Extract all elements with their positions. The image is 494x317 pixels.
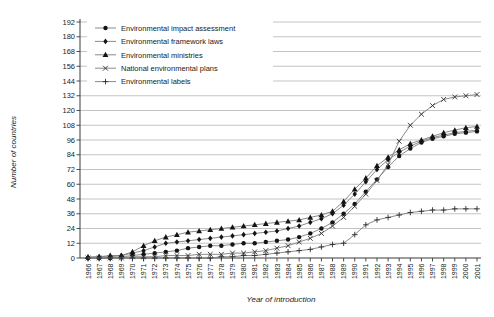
x-tick-label: 1986 — [307, 263, 314, 279]
x-tick-label: 1981 — [251, 263, 258, 279]
data-marker-plus — [396, 212, 402, 218]
data-marker-diamond — [175, 239, 179, 245]
y-tick-label: 120 — [62, 106, 75, 115]
data-marker-diamond — [286, 226, 290, 232]
y-tick-label: 192 — [62, 18, 75, 27]
data-marker-plus — [374, 217, 380, 223]
y-axis-tick-labels: 0122436486072849610812013214415616818019… — [62, 18, 75, 263]
data-marker-plus — [430, 207, 436, 213]
legend-label: Environmental impact assessment — [121, 24, 236, 33]
data-marker-diamond — [219, 234, 223, 240]
x-tick-label: 1972 — [151, 263, 158, 279]
data-marker-circle — [208, 244, 212, 248]
data-marker-diamond — [164, 240, 168, 246]
data-marker-plus — [185, 255, 191, 261]
x-tick-label: 1969 — [118, 263, 125, 279]
legend-label: Environmental ministries — [121, 51, 203, 60]
x-axis-tick-labels: 1966196719681969197019711972197319741975… — [85, 263, 481, 279]
series-diamond — [86, 127, 479, 260]
data-marker-x — [319, 231, 324, 236]
x-tick-label: 1993 — [385, 263, 392, 279]
x-tick-label: 1989 — [340, 263, 347, 279]
data-marker-circle — [264, 240, 268, 244]
data-series — [85, 92, 480, 261]
data-marker-triangle — [130, 249, 136, 254]
y-tick-label: 108 — [62, 121, 75, 130]
x-tick-label: 1998 — [440, 263, 447, 279]
data-marker-triangle — [374, 163, 380, 168]
data-marker-diamond — [141, 248, 145, 254]
x-tick-label: 1980 — [240, 263, 247, 279]
x-tick-label: 1982 — [262, 263, 269, 279]
x-tick-label: 1999 — [451, 263, 458, 279]
data-marker-circle — [241, 241, 245, 245]
data-marker-plus — [141, 255, 147, 261]
y-tick-label: 0 — [71, 254, 75, 263]
legend-circle-icon — [103, 26, 107, 30]
legend-label: National environmental plans — [121, 64, 218, 73]
data-marker-circle — [230, 242, 234, 246]
data-marker-plus — [296, 248, 302, 254]
line-chart: 0122436486072849610812013214415616818019… — [0, 0, 494, 317]
data-marker-diamond — [253, 231, 257, 237]
legend-label: Environmental framework laws — [121, 37, 223, 46]
series-x — [86, 92, 480, 260]
data-marker-circle — [308, 231, 312, 235]
data-marker-plus — [385, 215, 391, 221]
x-tick-label: 1967 — [96, 263, 103, 279]
y-tick-label: 72 — [67, 165, 75, 174]
data-marker-diamond — [264, 229, 268, 235]
data-marker-diamond — [241, 232, 245, 238]
data-marker-diamond — [152, 244, 156, 250]
data-marker-plus — [219, 254, 225, 260]
x-tick-label: 1996 — [418, 263, 425, 279]
y-tick-label: 168 — [62, 47, 75, 56]
x-tick-label: 2000 — [462, 263, 469, 279]
x-tick-label: 2001 — [474, 263, 481, 279]
x-tick-label: 1985 — [296, 263, 303, 279]
data-marker-plus — [274, 250, 280, 256]
y-tick-label: 12 — [67, 239, 75, 248]
data-marker-diamond — [275, 228, 279, 234]
x-tick-label: 1975 — [185, 263, 192, 279]
data-marker-plus — [419, 208, 425, 214]
data-marker-x — [419, 112, 424, 117]
data-marker-plus — [463, 206, 469, 212]
x-tick-label: 1976 — [196, 263, 203, 279]
legend-label: Environmental labels — [121, 77, 191, 86]
data-marker-plus — [307, 247, 313, 253]
data-marker-circle — [275, 239, 279, 243]
series-line — [88, 126, 477, 256]
data-marker-diamond — [230, 233, 234, 239]
data-marker-diamond — [186, 238, 190, 244]
x-tick-label: 1973 — [162, 263, 169, 279]
x-tick-label: 1987 — [318, 263, 325, 279]
x-tick-label: 1983 — [274, 263, 281, 279]
y-tick-label: 180 — [62, 32, 75, 41]
data-marker-triangle — [474, 123, 480, 128]
x-tick-label: 1978 — [218, 263, 225, 279]
x-tick-label: 1995 — [407, 263, 414, 279]
y-tick-label: 156 — [62, 62, 75, 71]
data-marker-plus — [408, 210, 414, 216]
data-marker-plus — [330, 242, 336, 248]
y-tick-label: 48 — [67, 195, 75, 204]
x-tick-label: 1994 — [396, 263, 403, 279]
data-marker-x — [430, 103, 435, 108]
data-marker-x — [397, 139, 402, 144]
x-tick-label: 1971 — [140, 263, 147, 279]
data-marker-diamond — [197, 237, 201, 243]
x-tick-label: 1970 — [129, 263, 136, 279]
y-tick-label: 144 — [62, 77, 75, 86]
data-marker-circle — [197, 245, 201, 249]
x-tick-label: 1988 — [329, 263, 336, 279]
data-marker-x — [308, 236, 313, 241]
data-marker-plus — [452, 206, 458, 212]
data-marker-circle — [297, 235, 301, 239]
data-marker-circle — [186, 246, 190, 250]
series-line — [88, 209, 477, 258]
series-line — [88, 130, 477, 258]
data-marker-plus — [285, 249, 291, 255]
y-tick-label: 84 — [67, 150, 75, 159]
data-marker-circle — [175, 248, 179, 252]
